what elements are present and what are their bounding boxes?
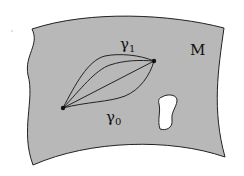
homotopy-diagram: γ1 M γ0 — [0, 0, 244, 176]
label-manifold: M — [190, 41, 205, 59]
end-point — [152, 59, 156, 63]
start-point — [61, 106, 65, 110]
stray-mark — [11, 30, 12, 31]
